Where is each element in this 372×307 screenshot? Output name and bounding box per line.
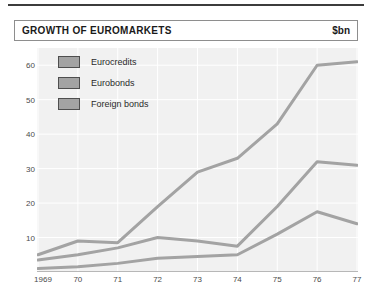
x-axis-tick-label: 1969 — [34, 275, 52, 284]
legend-item: Eurobonds — [58, 75, 149, 90]
y-axis-tick-label: 30 — [26, 164, 35, 173]
page-title: GROWTH OF EUROMARKETS — [22, 25, 172, 36]
legend-item: Eurocredits — [58, 54, 149, 69]
legend-swatch — [58, 56, 80, 68]
legend-label: Foreign bonds — [91, 99, 149, 109]
x-axis-tick-label: 72 — [153, 275, 162, 284]
x-axis-tick-label: 71 — [113, 275, 122, 284]
x-axis-tick-label: 74 — [233, 275, 242, 284]
x-axis-tick-label: 70 — [73, 275, 82, 284]
y-axis-tick-label: 20 — [26, 199, 35, 208]
chart-title-bar: GROWTH OF EUROMARKETS $bn — [14, 20, 358, 41]
unit-label: $bn — [332, 25, 350, 36]
top-divider — [8, 4, 364, 6]
x-axis-tick-label: 75 — [273, 275, 282, 284]
legend-swatch — [58, 77, 80, 89]
legend-swatch — [58, 98, 80, 110]
y-axis: 102030405060 — [14, 48, 35, 272]
y-axis-tick-label: 10 — [26, 233, 35, 242]
x-axis: 19697071727374757677 — [37, 275, 358, 289]
x-axis-tick-label: 76 — [313, 275, 322, 284]
legend-item: Foreign bonds — [58, 96, 149, 111]
y-axis-tick-label: 50 — [26, 95, 35, 104]
y-axis-tick-label: 60 — [26, 61, 35, 70]
x-axis-tick-label: 73 — [193, 275, 202, 284]
legend-label: Eurocredits — [91, 57, 137, 67]
legend-label: Eurobonds — [91, 78, 135, 88]
chart-page: GROWTH OF EUROMARKETS $bn 102030405060 1… — [0, 0, 372, 307]
x-axis-tick-label: 77 — [353, 275, 362, 284]
y-axis-tick-label: 40 — [26, 130, 35, 139]
chart-legend: EurocreditsEurobondsForeign bonds — [58, 54, 149, 117]
